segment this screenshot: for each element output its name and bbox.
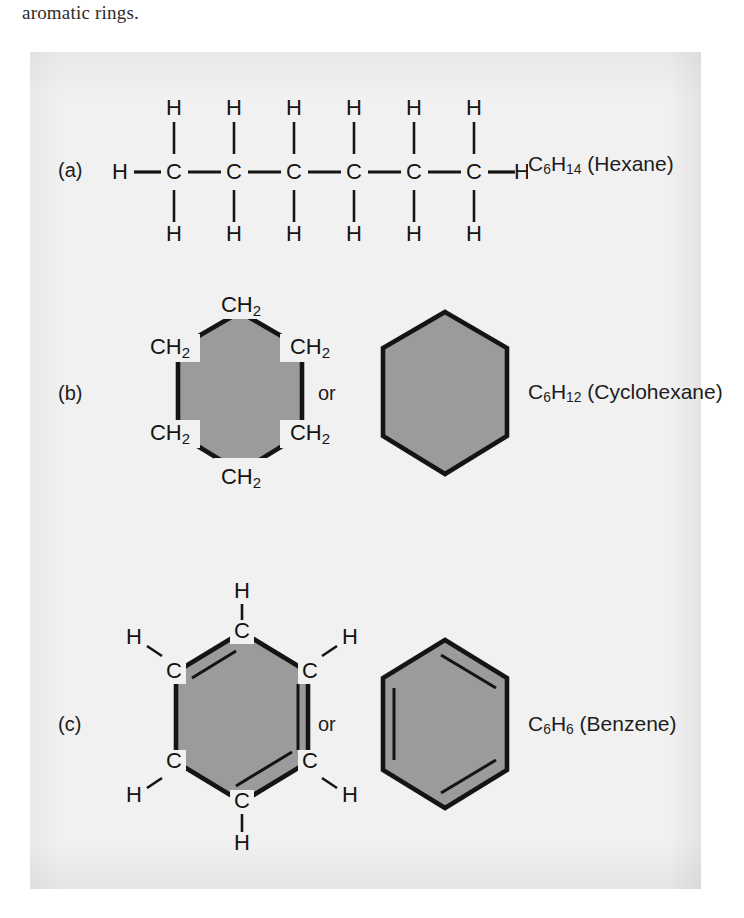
hexane-structure: H H C C C C C C H H H H H H H H H H H H (108, 62, 528, 242)
hexane-top-h-1: H (166, 95, 182, 120)
or-label-c: or (318, 713, 336, 736)
formula-hexane-h: H (551, 152, 566, 175)
benzene-carbon-top: C (234, 618, 250, 643)
hexane-carbon-5: C (406, 159, 422, 184)
benzene-carbon-upper-left: C (166, 658, 182, 683)
formula-benzene-h-sub: 6 (566, 721, 574, 737)
formula-cyclohexane: C6H12 (Cyclohexane) (528, 380, 723, 405)
cyclohexane-vertex-upper-left-base: CH (150, 334, 182, 359)
formula-cyclohexane-h: H (551, 380, 566, 403)
hexane-bottom-h-2: H (226, 221, 242, 242)
formula-benzene: C6H6 (Benzene) (528, 712, 677, 737)
benzene-structure-skeletal (370, 630, 520, 820)
formula-hexane-h-sub: 14 (566, 161, 581, 177)
row-label-a: (a) (58, 159, 82, 182)
formula-cyclohexane-c: C (528, 380, 543, 403)
cyclohexane-vertex-lower-right-base: CH (290, 420, 322, 445)
benzene-hydrogen-lower-left: H (126, 782, 142, 807)
cyclohexane-vertex-lower-left-base: CH (150, 420, 182, 445)
hexane-bottom-h-1: H (166, 221, 182, 242)
cyclohexane-vertex-top-sub: 2 (253, 302, 261, 319)
benzene-hydrogen-top: H (234, 580, 250, 603)
benzene-hydrogen-lower-right: H (342, 782, 358, 807)
hexane-carbon-1: C (166, 159, 182, 184)
benzene-carbon-upper-right: C (302, 658, 318, 683)
hexane-bottom-h-5: H (406, 221, 422, 242)
formula-hexane: C6H14 (Hexane) (528, 152, 674, 177)
hexane-terminal-h-left: H (112, 159, 128, 184)
formula-cyclohexane-c-sub: 6 (543, 389, 551, 405)
formula-hexane-c-sub: 6 (543, 161, 551, 177)
formula-benzene-c-sub: 6 (543, 721, 551, 737)
hexane-carbon-6: C (466, 159, 482, 184)
hexane-top-h-3: H (286, 95, 302, 120)
cyclohexane-structure-skeletal (370, 304, 520, 484)
row-label-c: (c) (58, 713, 81, 736)
hexane-carbon-4: C (346, 159, 362, 184)
benzene-hydrogen-bottom: H (234, 830, 250, 855)
cyclohexane-vertex-bottom-base: CH (221, 464, 253, 489)
benzene-carbon-bottom: C (234, 788, 250, 813)
formula-cyclohexane-name: (Cyclohexane) (581, 380, 722, 403)
hexane-bottom-h-4: H (346, 221, 362, 242)
cyclohexane-vertex-lower-right-sub: 2 (322, 430, 330, 447)
or-label-b: or (318, 382, 336, 405)
cyclohexane-structure-labelled: CH2 CH2 CH2 CH2 CH2 CH2 (130, 284, 350, 504)
hexane-bottom-h-3: H (286, 221, 302, 242)
hexane-top-h-4: H (346, 95, 362, 120)
benzene-hydrogen-upper-left: H (126, 624, 142, 649)
formula-benzene-name: (Benzene) (574, 712, 677, 735)
cyclohexane-vertex-upper-left-sub: 2 (182, 344, 190, 361)
hexane-top-h-5: H (406, 95, 422, 120)
formula-benzene-h: H (551, 712, 566, 735)
hexane-top-h-6: H (466, 95, 482, 120)
formula-hexane-name: (Hexane) (581, 152, 673, 175)
figure-caption-text: aromatic rings. (22, 2, 139, 24)
benzene-hydrogen-upper-right: H (342, 624, 358, 649)
hexane-bottom-h-6: H (466, 221, 482, 242)
benzene-carbon-lower-right: C (302, 748, 318, 773)
formula-hexane-c: C (528, 152, 543, 175)
figure-panel: (a) H H (30, 52, 701, 889)
cyclohexane-vertex-upper-right-sub: 2 (322, 344, 330, 361)
cyclohexane-vertex-upper-right-base: CH (290, 334, 322, 359)
benzene-carbon-lower-left: C (166, 748, 182, 773)
hexane-carbon-2: C (226, 159, 242, 184)
row-label-b: (b) (58, 382, 82, 405)
cyclohexane-vertex-lower-left-sub: 2 (182, 430, 190, 447)
formula-benzene-c: C (528, 712, 543, 735)
hexane-carbon-3: C (286, 159, 302, 184)
hexane-terminal-h-right: H (514, 159, 528, 184)
cyclohexane-vertex-top-base: CH (221, 292, 253, 317)
formula-cyclohexane-h-sub: 12 (566, 389, 581, 405)
hexane-top-h-2: H (226, 95, 242, 120)
cyclohexane-vertex-bottom-sub: 2 (253, 474, 261, 491)
